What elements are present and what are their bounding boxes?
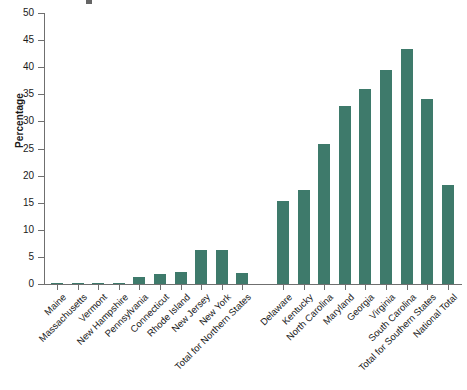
bar [236,273,248,284]
x-axis-tick [57,285,58,290]
x-axis-line [44,284,462,285]
y-axis-tick-label: 5 [0,252,34,262]
x-axis-tick [304,285,305,290]
bar [113,283,125,284]
y-axis-tick [38,40,44,41]
bar [133,277,145,284]
x-axis-tick [345,285,346,290]
y-axis-tick-label: 35 [0,89,34,99]
x-axis-tick [119,285,120,290]
y-axis-tick-label: 45 [0,35,34,45]
bar [51,283,63,284]
x-axis-tick [160,285,161,290]
bar [380,70,392,284]
y-axis-tick-label: 30 [0,116,34,126]
y-axis-tick-label: 50 [0,8,34,18]
y-axis-line [44,13,45,285]
x-axis-tick [242,285,243,290]
x-axis-tick [386,285,387,290]
bar [216,250,228,284]
y-axis-tick-label: 0 [0,279,34,289]
x-axis-tick [448,285,449,290]
x-axis-tick [283,285,284,290]
y-axis-tick [38,121,44,122]
y-axis-tick [38,176,44,177]
x-axis-tick [365,285,366,290]
bar [442,185,454,284]
bar [277,201,289,284]
y-axis-tick [38,67,44,68]
bar [421,99,433,284]
y-axis-tick [38,94,44,95]
x-axis-tick [139,285,140,290]
y-axis-tick-label: 25 [0,144,34,154]
y-axis-tick-label: 15 [0,198,34,208]
bar [154,274,166,284]
x-axis-tick [324,285,325,290]
y-axis-tick [38,13,44,14]
bar [72,283,84,284]
bar [195,250,207,284]
bar [318,144,330,284]
x-axis-tick [407,285,408,290]
x-axis-tick [181,285,182,290]
bar [339,106,351,284]
x-axis-tick [78,285,79,290]
bar [175,272,187,284]
y-axis-tick-label: 40 [0,62,34,72]
image-crop-artifact [86,0,92,4]
bar [92,283,104,284]
bar [401,49,413,284]
x-axis-tick [201,285,202,290]
y-axis-tick-label: 20 [0,171,34,181]
y-axis-tick [38,149,44,150]
bar-chart: Percentage 05101520253035404550 MaineMas… [0,0,467,390]
bar [298,190,310,284]
x-axis-tick [98,285,99,290]
y-axis-tick [38,230,44,231]
x-axis-tick [427,285,428,290]
y-axis-tick-label: 10 [0,225,34,235]
y-axis-tick [38,257,44,258]
bar [359,89,371,284]
y-axis-tick [38,284,44,285]
x-axis-tick [222,285,223,290]
y-axis-tick [38,203,44,204]
